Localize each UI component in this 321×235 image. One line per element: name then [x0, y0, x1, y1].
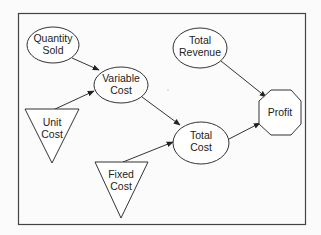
node-profit: Profit — [259, 90, 301, 135]
node-label: Cost — [190, 141, 212, 153]
node-label: Total — [189, 34, 211, 46]
node-label: Total — [190, 129, 212, 141]
node-label: Revenue — [179, 46, 221, 58]
edge-quantity-sold-to-variable-cost — [72, 58, 99, 70]
node-label: Sold — [42, 44, 63, 56]
node-label: Variable — [102, 72, 140, 84]
influence-diagram: Quantity Sold Variable Cost Unit Cost To… — [0, 0, 321, 235]
edge-total-revenue-to-profit — [221, 61, 266, 97]
node-label: Quantity — [33, 32, 73, 44]
node-label: Fixed — [108, 168, 134, 180]
node-variable-cost: Variable Cost — [94, 67, 148, 103]
node-quantity-sold: Quantity Sold — [27, 27, 79, 63]
node-label: Unit — [43, 116, 62, 128]
edge-unit-cost-to-variable-cost — [53, 91, 94, 110]
edge-variable-cost-to-total-cost — [142, 97, 180, 125]
speck — [167, 89, 168, 90]
node-total-cost: Total Cost — [173, 122, 229, 164]
node-label: Cost — [41, 128, 63, 140]
node-total-revenue: Total Revenue — [173, 28, 227, 68]
node-unit-cost: Unit Cost — [25, 109, 79, 163]
node-label: Profit — [268, 106, 293, 118]
node-fixed-cost: Fixed Cost — [95, 162, 148, 218]
node-label: Cost — [110, 180, 132, 192]
edge-total-cost-to-profit — [229, 123, 260, 139]
edge-fixed-cost-to-total-cost — [123, 142, 173, 162]
node-label: Cost — [110, 84, 132, 96]
